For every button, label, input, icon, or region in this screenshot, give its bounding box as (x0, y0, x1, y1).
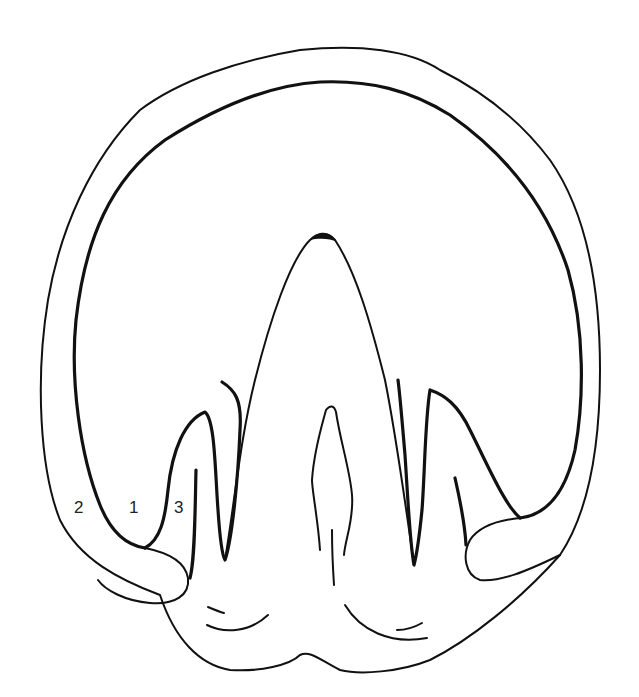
right-bar (398, 380, 520, 565)
hoof-drawing (0, 0, 639, 697)
left-bar (145, 382, 240, 560)
frog (225, 234, 414, 565)
label-2: 2 (74, 498, 83, 518)
outer-hoof-wall (41, 48, 600, 673)
heel-crease-right-2 (397, 623, 422, 630)
hoof-diagram: 2 1 3 (0, 0, 639, 697)
label-1: 1 (129, 498, 138, 518)
heel-crease-left-2 (207, 615, 268, 630)
white-line (74, 82, 581, 548)
heel-crease-left-1 (208, 607, 224, 613)
left-bar-inner (190, 470, 196, 578)
heel-crease-right-1 (345, 605, 427, 640)
central-sulcus-stem (332, 530, 334, 585)
frog-apex-shadow (310, 233, 337, 242)
right-bar-inner (455, 478, 466, 545)
left-heel-bulb (98, 548, 188, 603)
label-3: 3 (174, 498, 183, 518)
